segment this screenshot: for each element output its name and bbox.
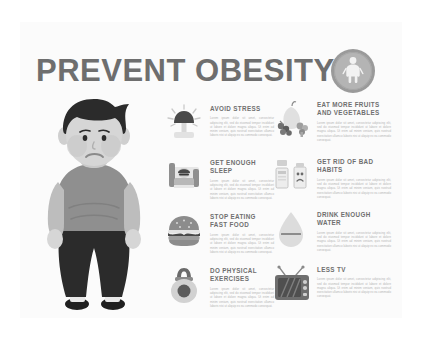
poster-header: PREVENT OBESITY xyxy=(36,48,386,94)
tip-body: GET RID OF BAD HABITS Lorem ipsum dolor … xyxy=(317,158,391,199)
tip-body: EAT MORE FRUITS AND VEGETABLES Lorem ips… xyxy=(317,101,391,142)
tip-title: STOP EATING FAST FOOD xyxy=(210,213,274,230)
tip-title: AVOID STRESS xyxy=(210,105,274,113)
tip-text: Lorem ipsum dolor sit amet, consectetur … xyxy=(210,179,274,200)
tip-text: Lorem ipsum dolor sit amet, consectetur … xyxy=(210,116,274,137)
overweight-man-illustration xyxy=(33,98,155,313)
infographic-poster: PREVENT OBESITY xyxy=(0,0,422,337)
tip-title: EAT MORE FRUITS AND VEGETABLES xyxy=(317,101,391,118)
character-svg xyxy=(33,98,155,313)
cigarettes-alcohol-icon xyxy=(272,156,310,196)
kettlebell-icon xyxy=(165,265,203,305)
tip-text: Lorem ipsum dolor sit amet, consectetur … xyxy=(317,121,391,142)
tip-body: DO PHYSICAL EXERCISES Lorem ipsum dolor … xyxy=(210,267,274,308)
stressed-head-icon xyxy=(165,103,203,143)
human-figure-badge-icon xyxy=(331,49,375,93)
tip-title: GET ENOUGH SLEEP xyxy=(210,159,274,176)
tip-title: DO PHYSICAL EXERCISES xyxy=(210,267,274,284)
tip-body: AVOID STRESS Lorem ipsum dolor sit amet,… xyxy=(210,105,274,138)
tip-title: DRINK ENOUGH WATER xyxy=(317,211,391,228)
hamburger-icon xyxy=(165,211,203,251)
retro-tv-icon xyxy=(272,264,310,304)
human-figure-glyph xyxy=(334,52,372,90)
tip-text: Lorem ipsum dolor sit amet, consectetur … xyxy=(210,287,274,308)
tip-title: GET RID OF BAD HABITS xyxy=(317,158,391,175)
tip-text: Lorem ipsum dolor sit amet, consectetur … xyxy=(317,231,391,252)
tip-body: DRINK ENOUGH WATER Lorem ipsum dolor sit… xyxy=(317,211,391,252)
badge-inner-circle xyxy=(334,52,372,90)
page-title: PREVENT OBESITY xyxy=(36,48,335,94)
tip-text: Lorem ipsum dolor sit amet, consectetur … xyxy=(317,277,391,298)
tip-body: GET ENOUGH SLEEP Lorem ipsum dolor sit a… xyxy=(210,159,274,200)
tip-body: STOP EATING FAST FOOD Lorem ipsum dolor … xyxy=(210,213,274,254)
water-drop-icon xyxy=(272,209,310,249)
tip-title: LESS TV xyxy=(317,266,391,274)
sleeping-person-icon xyxy=(165,157,203,197)
tip-text: Lorem ipsum dolor sit amet, consectetur … xyxy=(210,233,274,254)
fruits-vegetables-icon xyxy=(272,99,310,139)
tip-body: LESS TV Lorem ipsum dolor sit amet, cons… xyxy=(317,266,391,299)
tip-text: Lorem ipsum dolor sit amet, consectetur … xyxy=(317,178,391,199)
